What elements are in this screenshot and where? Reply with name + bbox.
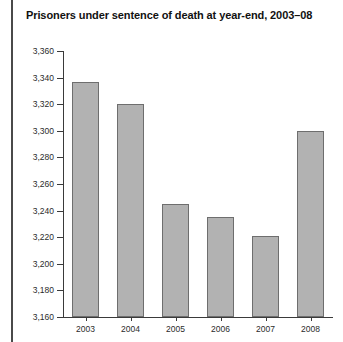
chart-figure: Prisoners under sentence of death at yea… bbox=[0, 0, 343, 342]
x-tick-mark bbox=[221, 317, 222, 321]
y-tick-label: 3,340 bbox=[33, 73, 54, 83]
y-tick-label: 3,320 bbox=[33, 99, 54, 109]
x-tick-label: 2003 bbox=[76, 324, 95, 334]
y-tick-mark bbox=[57, 184, 63, 185]
y-tick-label: 3,200 bbox=[33, 259, 54, 269]
bar-2007 bbox=[252, 236, 279, 317]
bar-2004 bbox=[117, 104, 144, 317]
y-tick-mark bbox=[57, 104, 63, 105]
y-tick-mark bbox=[57, 237, 63, 238]
y-tick-label: 3,260 bbox=[33, 179, 54, 189]
y-tick-mark bbox=[57, 211, 63, 212]
x-tick-label: 2006 bbox=[211, 324, 230, 334]
y-tick-mark bbox=[57, 317, 63, 318]
x-tick-label: 2004 bbox=[121, 324, 140, 334]
x-axis-line bbox=[63, 317, 333, 318]
y-tick-mark bbox=[57, 51, 63, 52]
x-tick-mark bbox=[311, 317, 312, 321]
y-tick-mark bbox=[57, 290, 63, 291]
y-tick-label: 3,360 bbox=[33, 46, 54, 56]
x-tick-mark bbox=[266, 317, 267, 321]
y-tick-mark bbox=[57, 264, 63, 265]
y-tick-label: 3,160 bbox=[33, 312, 54, 322]
x-tick-mark bbox=[176, 317, 177, 321]
x-tick-mark bbox=[86, 317, 87, 321]
y-tick-mark bbox=[57, 157, 63, 158]
bar-2003 bbox=[72, 82, 99, 317]
bar-2005 bbox=[162, 204, 189, 317]
y-tick-label: 3,280 bbox=[33, 152, 54, 162]
x-tick-mark bbox=[131, 317, 132, 321]
bar-2008 bbox=[297, 131, 324, 317]
y-tick-label: 3,180 bbox=[33, 285, 54, 295]
plot-area: 3,1603,1803,2003,2203,2403,2603,2803,300… bbox=[0, 0, 343, 342]
y-axis-line bbox=[63, 51, 64, 318]
x-tick-label: 2007 bbox=[256, 324, 275, 334]
y-tick-label: 3,300 bbox=[33, 126, 54, 136]
y-tick-mark bbox=[57, 131, 63, 132]
x-tick-label: 2008 bbox=[301, 324, 320, 334]
x-tick-label: 2005 bbox=[166, 324, 185, 334]
y-tick-label: 3,240 bbox=[33, 206, 54, 216]
bar-2006 bbox=[207, 217, 234, 317]
y-tick-label: 3,220 bbox=[33, 232, 54, 242]
y-tick-mark bbox=[57, 78, 63, 79]
